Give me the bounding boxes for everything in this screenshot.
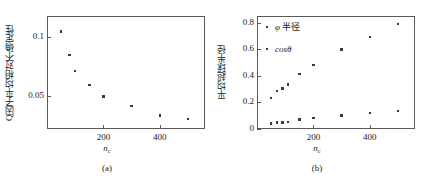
y-tick-label: 0.2 (243, 96, 254, 106)
y-tick-label: 0.8 (243, 17, 254, 27)
data-point (369, 112, 371, 114)
data-point (159, 114, 161, 116)
x-tick-mark (103, 125, 104, 129)
x-tick-mark (370, 125, 371, 129)
x-axis-label-b: nc (313, 143, 320, 154)
data-point (276, 90, 278, 92)
panel-caption-a: (a) (102, 163, 112, 173)
legend-label-phi-radius: φ 半径 (275, 20, 300, 34)
y-tick-mark (257, 49, 261, 50)
y-tick-mark (257, 23, 261, 24)
data-point (397, 23, 399, 25)
x-axis-label-a-sub: c (108, 147, 111, 154)
x-axis-label-b-sub: c (318, 147, 321, 154)
panel-a: Q因子平均相对不确定性 nc (a) 0.050.1200400 (0, 0, 212, 183)
legend-marker-cos-theta (266, 48, 268, 50)
y-tick-label: 0 (250, 123, 255, 133)
data-point (369, 36, 371, 38)
data-point (88, 84, 90, 86)
x-tick-mark (313, 125, 314, 129)
panel-b: 平均超球半径 nc (b) φ 半径 cosθ 00.20.40.60.8200… (212, 0, 424, 183)
data-point (270, 97, 272, 99)
y-axis-label-a: Q因子平均相对不确定性 (2, 16, 14, 129)
plot-area-a (47, 16, 205, 129)
figure-root: Q因子平均相对不确定性 nc (a) 0.050.1200400 平均超球半径 … (0, 0, 425, 183)
y-axis-label-b: 平均超球半径 (214, 16, 226, 129)
data-point (270, 122, 272, 124)
y-tick-label: 0.4 (243, 70, 254, 80)
data-point (60, 30, 62, 32)
data-point (312, 117, 314, 119)
data-point (68, 54, 70, 56)
data-point (287, 83, 289, 85)
data-point (298, 118, 300, 120)
legend-label-cos-theta: cosθ (275, 42, 291, 56)
x-tick-mark (160, 125, 161, 129)
x-axis-label-a: nc (103, 143, 110, 154)
data-point (397, 110, 399, 112)
x-tick-label: 200 (307, 132, 321, 142)
data-point (102, 95, 104, 97)
y-tick-label: 0.1 (33, 31, 44, 41)
data-point (312, 64, 314, 66)
data-point (281, 121, 283, 123)
data-point (187, 118, 189, 120)
y-tick-mark (47, 96, 51, 97)
y-tick-label: 0.6 (243, 43, 254, 53)
phi-radius-text: 半径 (280, 22, 300, 32)
data-point (287, 121, 289, 123)
data-point (276, 121, 278, 123)
y-tick-label: 0.05 (28, 90, 44, 100)
data-point (281, 87, 283, 89)
data-point (340, 114, 342, 116)
y-tick-mark (47, 37, 51, 38)
data-point (340, 48, 342, 50)
y-tick-mark (257, 102, 261, 103)
x-tick-label: 200 (97, 132, 111, 142)
y-tick-mark (257, 76, 261, 77)
panel-caption-b: (b) (312, 163, 323, 173)
x-tick-label: 400 (363, 132, 377, 142)
data-point (130, 105, 132, 107)
y-tick-mark (257, 129, 261, 130)
data-point (298, 73, 300, 75)
data-point (74, 70, 76, 72)
legend-marker-phi-radius (266, 26, 268, 28)
x-tick-label: 400 (153, 132, 167, 142)
